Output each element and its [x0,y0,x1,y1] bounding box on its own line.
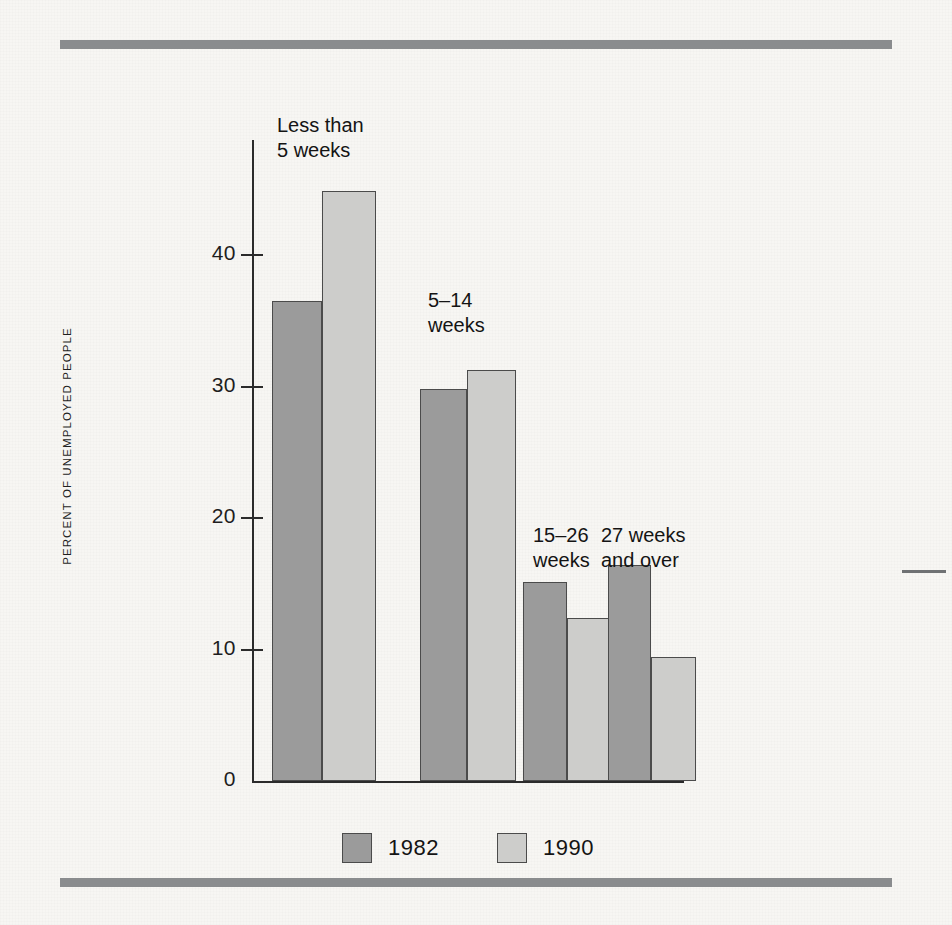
bar-1982-1 [272,301,322,781]
category-label-2: 5–14 weeks [428,288,485,338]
page-background: 010203040 PERCENT OF UNEMPLOYED PEOPLE L… [0,0,952,925]
y-axis-line [252,140,254,782]
y-tick: 20 [0,517,236,519]
y-tick-label: 30 [180,373,236,397]
y-tick-label: 20 [180,504,236,528]
legend-item-1982: 1982 [342,833,439,863]
legend-swatch-1982 [342,833,372,863]
y-axis-title: PERCENT OF UNEMPLOYED PEOPLE [61,316,73,576]
legend-label-1982: 1982 [388,835,439,861]
bar-1990-4 [651,657,696,781]
legend-swatch-1990 [497,833,527,863]
category-label-4: 27 weeks and over [601,523,686,573]
y-tick-label: 40 [180,241,236,265]
category-label-3: 15–26 weeks [533,523,590,573]
category-label-1: Less than 5 weeks [277,113,364,163]
y-tick-mark [241,254,263,256]
y-tick-mark [241,386,263,388]
bar-1982-4 [608,565,651,781]
legend-label-1990: 1990 [543,835,594,861]
bar-1982-3 [523,582,567,781]
y-tick-label: 0 [180,767,236,791]
bar-chart: 010203040 PERCENT OF UNEMPLOYED PEOPLE L… [0,0,952,925]
legend-item-1990: 1990 [497,833,594,863]
y-tick: 30 [0,386,236,388]
y-tick-mark [241,649,263,651]
y-tick: 40 [0,254,236,256]
chart-legend: 19821990 [252,833,684,863]
y-tick-label: 10 [180,636,236,660]
y-tick-mark [241,517,263,519]
bar-1990-2 [467,370,516,781]
bar-1982-2 [420,389,467,781]
y-tick: 10 [0,649,236,651]
x-axis-line [252,781,684,783]
bar-1990-3 [567,618,611,781]
y-tick: 0 [0,780,236,782]
bar-1990-1 [322,191,376,781]
